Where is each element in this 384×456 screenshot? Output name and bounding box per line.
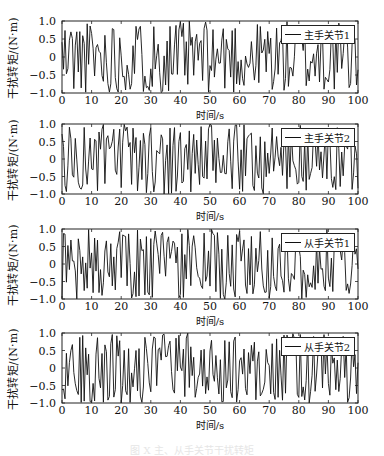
x-tick-label: 70 [262, 301, 276, 312]
x-tick-label: 90 [321, 95, 335, 106]
x-tick-label: 30 [144, 95, 158, 106]
x-tick-label: 0 [59, 95, 66, 106]
x-axis-label: 时间/s [196, 208, 225, 223]
x-tick-label: 100 [348, 301, 369, 312]
x-tick-label: 0 [59, 405, 66, 416]
legend-line-icon [285, 137, 301, 138]
x-tick-label: 50 [203, 301, 217, 312]
y-tick-label: 0.5 [10, 242, 56, 253]
x-tick-label: 70 [262, 196, 276, 207]
x-tick-label: 30 [144, 301, 158, 312]
x-tick-label: 10 [85, 301, 99, 312]
x-tick-label: 60 [233, 301, 247, 312]
legend-line-icon [285, 242, 301, 243]
x-tick-label: 100 [348, 196, 369, 207]
x-tick-label: 0 [59, 301, 66, 312]
legend-label: 从手关节2 [304, 339, 350, 354]
legend-line-icon [285, 34, 301, 35]
x-tick-label: 80 [292, 95, 306, 106]
x-tick-label: 70 [262, 405, 276, 416]
x-tick-label: 40 [173, 301, 187, 312]
x-tick-label: 40 [173, 95, 187, 106]
x-tick-label: 30 [144, 196, 158, 207]
y-tick-label: 1.0 [10, 328, 56, 339]
x-tick-label: 20 [114, 95, 128, 106]
x-tick-label: 20 [114, 196, 128, 207]
legend: 从手关节2 [281, 337, 355, 356]
x-tick-label: 60 [233, 405, 247, 416]
legend: 主手关节1 [281, 25, 355, 44]
x-tick-label: 20 [114, 405, 128, 416]
legend-label: 主手关节2 [304, 130, 350, 145]
y-tick-label: −1.0 [10, 88, 56, 99]
x-tick-label: 100 [348, 95, 369, 106]
x-tick-label: 10 [85, 196, 99, 207]
y-tick-label: −0.5 [10, 70, 56, 81]
y-tick-label: −0.5 [10, 381, 56, 392]
legend: 从手关节1 [281, 233, 355, 252]
x-tick-label: 50 [203, 196, 217, 207]
y-tick-label: 0 [10, 154, 56, 165]
y-tick-label: 0.5 [10, 346, 56, 357]
y-tick-label: −0.5 [10, 277, 56, 288]
x-tick-label: 40 [173, 405, 187, 416]
y-tick-label: 1.0 [10, 16, 56, 27]
y-tick-label: 0.5 [10, 34, 56, 45]
x-tick-label: 50 [203, 95, 217, 106]
x-tick-label: 80 [292, 196, 306, 207]
y-tick-label: −1.0 [10, 189, 56, 200]
x-tick-label: 90 [321, 405, 335, 416]
figure-caption: 图 X 主、从手关节干扰转矩 [0, 442, 384, 456]
y-tick-label: −0.5 [10, 172, 56, 183]
x-tick-label: 10 [85, 95, 99, 106]
y-tick-label: 0 [10, 259, 56, 270]
x-tick-label: 20 [114, 301, 128, 312]
x-axis-label: 时间/s [196, 107, 225, 122]
y-tick-label: 1.0 [10, 119, 56, 130]
legend: 主手关节2 [281, 128, 355, 147]
legend-label: 主手关节1 [304, 27, 350, 42]
x-tick-label: 40 [173, 196, 187, 207]
x-tick-label: 70 [262, 95, 276, 106]
x-tick-label: 50 [203, 405, 217, 416]
y-tick-label: 1.0 [10, 224, 56, 235]
y-tick-label: −1.0 [10, 294, 56, 305]
x-tick-label: 10 [85, 405, 99, 416]
x-tick-label: 80 [292, 301, 306, 312]
x-axis-label: 时间/s [196, 417, 225, 432]
legend-line-icon [285, 346, 301, 347]
x-axis-label: 时间/s [196, 313, 225, 328]
legend-label: 从手关节1 [304, 235, 350, 250]
x-tick-label: 90 [321, 196, 335, 207]
x-tick-label: 30 [144, 405, 158, 416]
y-tick-label: 0 [10, 363, 56, 374]
y-tick-label: 0.5 [10, 137, 56, 148]
x-tick-label: 0 [59, 196, 66, 207]
x-tick-label: 80 [292, 405, 306, 416]
x-tick-label: 60 [233, 95, 247, 106]
x-tick-label: 90 [321, 301, 335, 312]
x-tick-label: 60 [233, 196, 247, 207]
x-tick-label: 100 [348, 405, 369, 416]
y-tick-label: −1.0 [10, 398, 56, 409]
y-tick-label: 0 [10, 52, 56, 63]
